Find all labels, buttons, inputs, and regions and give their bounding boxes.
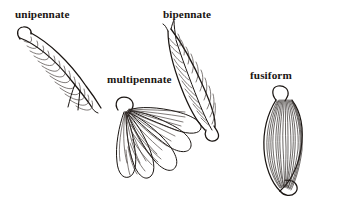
label-unipennate: unipennate [15, 8, 69, 20]
label-bipennate: bipennate [163, 8, 211, 20]
label-fusiform: fusiform [250, 69, 292, 81]
muscle-architecture-figure: .outline { fill: none; stroke: #1a1512; … [0, 0, 339, 205]
muscle-diagram-canvas: .outline { fill: none; stroke: #1a1512; … [0, 0, 339, 205]
label-multipennate: multipennate [107, 73, 172, 85]
